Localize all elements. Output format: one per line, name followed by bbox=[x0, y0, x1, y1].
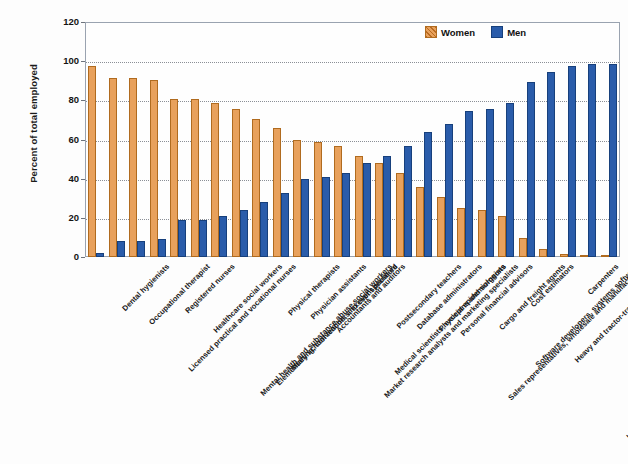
bar-group bbox=[537, 23, 558, 257]
bar-men bbox=[424, 132, 432, 257]
bar-group bbox=[558, 23, 579, 257]
bar-men bbox=[158, 239, 166, 257]
chart-legend: Women Men bbox=[425, 26, 536, 38]
bar-women bbox=[498, 216, 506, 257]
bar-men bbox=[281, 193, 289, 257]
bar-men bbox=[322, 177, 330, 257]
bar-men bbox=[568, 66, 576, 257]
bar-men bbox=[117, 241, 125, 257]
bar-women bbox=[457, 208, 465, 257]
bar-women bbox=[375, 163, 383, 257]
bar-men bbox=[506, 103, 514, 257]
bar-men bbox=[383, 156, 391, 257]
bar-men bbox=[547, 72, 555, 257]
bar-men bbox=[240, 210, 248, 257]
bar-group bbox=[86, 23, 107, 257]
legend-item-women: Women bbox=[425, 26, 475, 38]
bar-men bbox=[527, 82, 535, 258]
bar-men bbox=[301, 179, 309, 257]
bar-women bbox=[232, 109, 240, 257]
bar-women bbox=[580, 255, 588, 257]
bar-group bbox=[127, 23, 148, 257]
bar-group bbox=[394, 23, 415, 257]
bar-men bbox=[137, 241, 145, 257]
bar-group bbox=[414, 23, 435, 257]
bar-group bbox=[312, 23, 333, 257]
bar-men bbox=[199, 220, 207, 257]
bar-women bbox=[355, 156, 363, 257]
bar-group bbox=[435, 23, 456, 257]
bar-women bbox=[191, 99, 199, 257]
y-axis-tick-label: 20 bbox=[41, 212, 79, 223]
y-axis-tick-label: 0 bbox=[41, 251, 79, 262]
bar-group bbox=[455, 23, 476, 257]
bar-group bbox=[291, 23, 312, 257]
legend-label-women: Women bbox=[441, 27, 475, 38]
bar-women bbox=[170, 99, 178, 257]
bar-men bbox=[465, 111, 473, 257]
bar-men bbox=[219, 216, 227, 257]
bar-men bbox=[260, 202, 268, 257]
bar-group bbox=[517, 23, 538, 257]
bar-group bbox=[148, 23, 169, 257]
bar-group bbox=[168, 23, 189, 257]
bar-men bbox=[342, 173, 350, 257]
y-axis-tick-label: 80 bbox=[41, 94, 79, 105]
y-axis-tick-mark bbox=[81, 22, 85, 23]
bar-group bbox=[476, 23, 497, 257]
bar-women bbox=[601, 255, 609, 257]
bar-women bbox=[416, 187, 424, 257]
y-axis-tick-mark bbox=[81, 257, 85, 258]
bars-layer bbox=[86, 23, 619, 257]
y-axis-tick-mark bbox=[81, 61, 85, 62]
bar-chart: Percent of total employed 02040608010012… bbox=[0, 0, 628, 464]
bar-men bbox=[363, 163, 371, 257]
bar-women bbox=[150, 80, 158, 257]
bar-women bbox=[478, 210, 486, 257]
bar-women bbox=[539, 249, 547, 257]
bar-group bbox=[373, 23, 394, 257]
y-axis-tick-mark bbox=[81, 179, 85, 180]
bar-women bbox=[273, 128, 281, 257]
bar-men bbox=[445, 124, 453, 257]
legend-swatch-men-icon bbox=[491, 26, 503, 38]
y-axis-tick-label: 40 bbox=[41, 173, 79, 184]
bar-men bbox=[588, 64, 596, 257]
y-axis-tick-label: 60 bbox=[41, 134, 79, 145]
bar-women bbox=[519, 238, 527, 258]
legend-label-men: Men bbox=[507, 27, 526, 38]
bar-men bbox=[96, 253, 104, 257]
x-axis-label: Licensed practical and vocational nurses bbox=[187, 262, 298, 373]
x-axis-label: Market research analysts and marketing s… bbox=[382, 262, 520, 400]
y-axis-title: Percent of total employed bbox=[28, 29, 39, 219]
bar-group bbox=[189, 23, 210, 257]
y-axis-tick-mark bbox=[81, 100, 85, 101]
bar-group bbox=[496, 23, 517, 257]
bar-group bbox=[578, 23, 599, 257]
bar-group bbox=[332, 23, 353, 257]
y-axis-tick-label: 100 bbox=[41, 55, 79, 66]
bar-women bbox=[560, 254, 568, 257]
x-axis-labels: Dental hygienistsOccupational therapistL… bbox=[86, 258, 619, 458]
bar-women bbox=[314, 142, 322, 257]
bar-women bbox=[293, 140, 301, 257]
bar-women bbox=[109, 78, 117, 257]
y-axis-tick-label: 120 bbox=[41, 16, 79, 27]
bar-men bbox=[486, 109, 494, 257]
bar-women bbox=[334, 146, 342, 257]
y-axis-tick-mark bbox=[81, 218, 85, 219]
bar-women bbox=[437, 197, 445, 257]
bar-group bbox=[250, 23, 271, 257]
y-axis-tick-mark bbox=[81, 140, 85, 141]
bar-men bbox=[404, 146, 412, 257]
legend-swatch-women-icon bbox=[425, 26, 437, 38]
bar-group bbox=[209, 23, 230, 257]
bar-women bbox=[252, 119, 260, 257]
bar-women bbox=[88, 66, 96, 257]
bar-women bbox=[396, 173, 404, 257]
bar-group bbox=[599, 23, 620, 257]
bar-group bbox=[230, 23, 251, 257]
bar-women bbox=[211, 103, 219, 257]
bar-women bbox=[129, 78, 137, 257]
bar-men bbox=[178, 220, 186, 257]
